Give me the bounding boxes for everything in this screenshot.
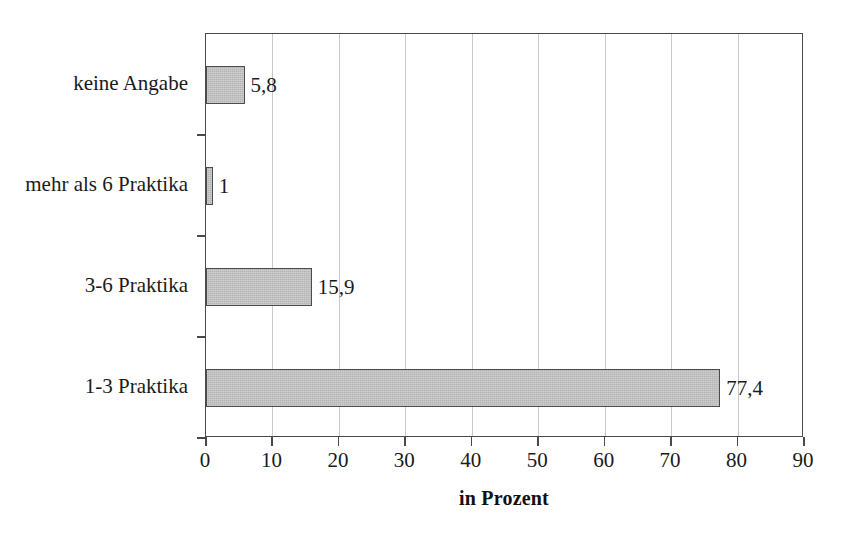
x-axis-tick-label: 60	[593, 449, 614, 472]
category-label: keine Angabe	[0, 33, 197, 134]
x-axis-tick-label: 10	[261, 449, 282, 472]
y-axis-tick	[197, 437, 205, 439]
y-axis-tick	[197, 134, 205, 136]
bar[interactable]	[206, 66, 245, 104]
bar-value-label: 15,9	[318, 276, 355, 297]
bar-value-label: 5,8	[251, 74, 277, 95]
bars-layer: 5,8115,977,4	[206, 34, 802, 436]
bar[interactable]	[206, 369, 720, 407]
bar-chart: 5,8115,977,4 keine Angabemehr als 6 Prak…	[0, 0, 842, 533]
category-label: mehr als 6 Praktika	[0, 134, 197, 235]
bar-row: 15,9	[206, 236, 802, 337]
bar[interactable]	[206, 167, 213, 205]
category-axis-labels: keine Angabemehr als 6 Praktika3-6 Prakt…	[0, 33, 197, 437]
x-axis-tick-labels: 0102030405060708090	[205, 449, 803, 477]
x-axis-tick-label: 30	[394, 449, 415, 472]
x-axis-tick-label: 80	[726, 449, 747, 472]
x-axis-ticks	[205, 437, 803, 447]
x-axis-tick	[404, 437, 406, 446]
x-axis-tick	[737, 437, 739, 446]
x-axis-tick-label: 70	[660, 449, 681, 472]
x-axis-tick	[670, 437, 672, 446]
bar[interactable]	[206, 268, 312, 306]
x-axis-tick	[537, 437, 539, 446]
x-axis-tick-label: 50	[527, 449, 548, 472]
x-axis-tick-label: 90	[793, 449, 814, 472]
category-label: 1-3 Praktika	[0, 336, 197, 437]
y-axis-tick	[197, 235, 205, 237]
bar-value-label: 77,4	[726, 377, 763, 398]
plot-area: 5,8115,977,4	[205, 33, 803, 437]
x-axis-title: in Prozent	[205, 487, 803, 510]
x-axis-tick-label: 0	[200, 449, 211, 472]
x-axis-tick	[271, 437, 273, 446]
x-axis-tick-label: 40	[460, 449, 481, 472]
category-label: 3-6 Praktika	[0, 235, 197, 336]
y-axis-tick	[197, 336, 205, 338]
bar-row: 77,4	[206, 337, 802, 438]
x-axis-tick	[471, 437, 473, 446]
bar-row: 1	[206, 135, 802, 236]
bar-row: 5,8	[206, 34, 802, 135]
x-axis-tick	[205, 437, 207, 446]
x-axis-tick-label: 20	[327, 449, 348, 472]
x-axis-tick	[803, 437, 805, 446]
x-axis-tick	[604, 437, 606, 446]
x-axis-tick	[338, 437, 340, 446]
bar-value-label: 1	[219, 175, 230, 196]
